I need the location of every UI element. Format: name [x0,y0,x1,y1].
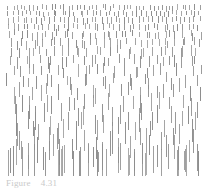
texture-tick [164,120,165,137]
texture-tick [29,5,30,11]
texture-tick [93,10,94,16]
texture-tick [118,11,119,17]
texture-tick [38,124,39,140]
texture-tick [161,47,162,57]
texture-tick [28,111,29,129]
texture-tick [106,149,107,176]
texture-tick [128,148,129,176]
texture-tick [103,115,104,133]
texture-tick [146,128,147,152]
texture-tick [177,150,178,176]
texture-tick [33,64,34,74]
texture-tick [51,96,52,114]
texture-tick [89,6,90,10]
texture-tick [140,128,141,145]
texture-tick [35,40,36,49]
texture-tick [80,147,81,176]
texture-tick [149,56,150,68]
texture-tick [194,4,195,10]
texture-tick [192,33,193,41]
texture-tick [201,65,202,74]
texture-tick [96,11,97,15]
texture-tick [96,38,97,45]
texture-tick [61,149,62,176]
texture-tick [27,24,28,29]
texture-tick [86,74,87,85]
texture-tick [39,11,40,16]
texture-tick [56,29,57,36]
texture-tick [107,17,108,23]
texture-tick [58,150,59,176]
texture-tick [68,47,69,57]
texture-tick [169,6,170,11]
texture-tick [41,66,42,75]
texture-tick [166,72,167,82]
figure-caption-number: 4.31 [41,178,58,188]
texture-tick [110,6,111,11]
texture-tick [148,85,149,97]
texture-tick [92,55,93,67]
texture-tick [14,29,15,35]
texture-tick [200,5,201,11]
texture-tick [128,82,129,95]
texture-tick [193,16,194,22]
texture-tick [125,31,126,37]
texture-tick [147,68,148,78]
texture-tick [157,24,158,30]
texture-tick [67,76,68,86]
texture-tick [62,45,63,56]
texture-tick [140,56,141,68]
texture-tick [103,4,104,8]
texture-tick [84,41,85,49]
texture-tick [97,120,98,139]
texture-tick [154,23,155,28]
texture-tick [95,88,96,104]
texture-tick [6,73,7,86]
texture-tick [130,136,131,158]
texture-tick [84,56,85,65]
texture-tick [167,24,168,30]
texture-tick [130,47,131,54]
texture-tick [116,31,117,39]
texture-tick [186,145,187,176]
texture-tick [152,16,153,22]
texture-tick [185,5,186,10]
texture-tick [164,12,165,17]
texture-tick [189,17,190,24]
texture-tick [30,11,31,16]
texture-tick [175,112,176,134]
texture-tick [24,24,25,30]
texture-tick [7,11,8,16]
texture-tick [176,16,177,21]
texture-tick [23,76,24,88]
texture-tick [27,30,28,38]
texture-tick [69,97,70,111]
texture-tick [192,56,193,67]
texture-tick [16,139,17,165]
texture-tick [46,83,47,94]
texture-tick [69,11,70,16]
texture-tick [40,55,41,63]
texture-tick [167,41,168,48]
texture-tick [108,93,109,110]
texture-tick [194,11,195,17]
texture-tick [189,24,190,30]
texture-tick [44,16,45,21]
texture-tick [10,56,11,65]
texture-tick [47,74,48,86]
texture-tick [114,66,115,78]
texture-tick [13,17,14,23]
texture-tick [90,37,91,45]
texture-tick [162,16,163,22]
texture-tick [64,24,65,29]
texture-tick [8,150,9,176]
texture-tick [28,78,29,88]
texture-tick [39,46,40,54]
texture-tick [52,32,53,40]
texture-tick [142,143,143,176]
texture-tick [157,105,158,123]
texture-tick [166,6,167,12]
texture-tick [165,46,166,55]
texture-tick [118,147,119,173]
texture-tick [139,16,140,23]
